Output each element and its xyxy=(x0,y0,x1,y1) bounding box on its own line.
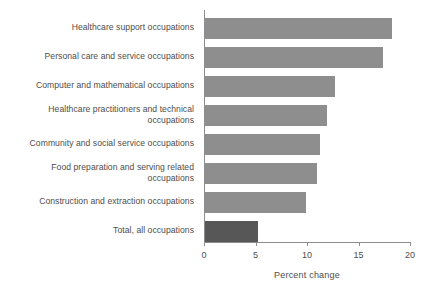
category-label: Healthcare support occupations xyxy=(0,22,194,33)
bar xyxy=(205,47,383,68)
x-tick xyxy=(256,242,257,246)
x-tick-label: 15 xyxy=(353,250,363,260)
plot-area xyxy=(204,10,410,242)
bar xyxy=(205,18,392,39)
category-label: Construction and extraction occupations xyxy=(0,196,194,207)
bar xyxy=(205,192,306,213)
x-tick-label: 10 xyxy=(302,250,312,260)
bar xyxy=(205,221,258,242)
category-label: Community and social service occupations xyxy=(0,138,194,149)
category-label: Personal care and service occupations xyxy=(0,51,194,62)
x-tick-label: 5 xyxy=(253,250,258,260)
x-tick-label: 0 xyxy=(201,250,206,260)
x-tick xyxy=(307,242,308,246)
category-label: Healthcare practitioners and technical o… xyxy=(0,104,194,125)
category-label: Computer and mathematical occupations xyxy=(0,80,194,91)
category-label: Food preparation and serving related occ… xyxy=(0,162,194,183)
x-tick-label: 20 xyxy=(405,250,415,260)
bar xyxy=(205,163,317,184)
category-label: Total, all occupations xyxy=(0,225,194,236)
category-labels: Healthcare support occupationsPersonal c… xyxy=(0,10,200,242)
x-tick xyxy=(359,242,360,246)
x-tick xyxy=(410,242,411,246)
x-tick xyxy=(204,242,205,246)
bar-chart: Healthcare support occupationsPersonal c… xyxy=(0,0,423,294)
bar xyxy=(205,76,335,97)
x-axis-title: Percent change xyxy=(204,270,410,280)
bar xyxy=(205,134,320,155)
bar xyxy=(205,105,327,126)
